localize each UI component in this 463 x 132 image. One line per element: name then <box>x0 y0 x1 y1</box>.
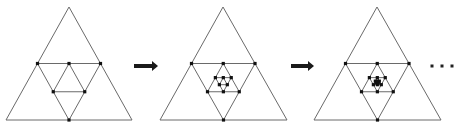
vertex-dot <box>52 90 55 93</box>
vertex-dot <box>344 62 347 65</box>
right-arrow-icon <box>291 61 314 71</box>
vertex-dot <box>222 76 225 79</box>
vertex-dot <box>392 90 395 93</box>
vertex-dot <box>360 90 363 93</box>
vertex-dot <box>67 62 70 65</box>
vertex-dot <box>226 83 229 86</box>
ellipsis-icon <box>431 65 454 68</box>
vertex-dot <box>190 62 193 65</box>
vertex-dot <box>376 80 379 83</box>
vertex-dot <box>222 90 225 93</box>
vertex-dot <box>372 83 375 86</box>
vertex-dot <box>376 62 379 65</box>
triangle-stage-3 <box>314 7 441 122</box>
vertex-dot <box>218 83 221 86</box>
vertex-dot <box>222 118 225 121</box>
vertex-dot <box>368 76 371 79</box>
vertex-dot <box>99 62 102 65</box>
vertex-dot <box>384 76 387 79</box>
vertex-dot <box>214 76 217 79</box>
vertex-dot <box>67 118 70 121</box>
vertex-dot <box>376 118 379 121</box>
nested-triangles-diagram <box>0 0 463 132</box>
triangle-stage-2 <box>160 7 287 122</box>
triangle-stage-1 <box>6 7 132 122</box>
vertex-dot <box>376 76 379 79</box>
right-arrow-icon <box>134 61 158 71</box>
vertex-dot <box>230 76 233 79</box>
vertex-dot <box>407 62 410 65</box>
vertex-dot <box>380 83 383 86</box>
vertex-dot <box>253 62 256 65</box>
vertex-dot <box>36 62 39 65</box>
vertex-dot <box>206 90 209 93</box>
vertex-dot <box>238 90 241 93</box>
vertex-dot <box>376 90 379 93</box>
triangle-edge <box>53 64 85 92</box>
vertex-dot <box>222 62 225 65</box>
vertex-dot <box>83 90 86 93</box>
